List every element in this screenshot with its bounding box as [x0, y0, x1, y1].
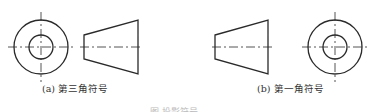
caption-third-angle: (a) 第三角符号: [42, 83, 108, 95]
third-angle-circle-view: [8, 12, 74, 82]
projection-symbols-diagram: [0, 0, 377, 112]
figure-caption: 图 投影符号: [150, 106, 198, 112]
first-angle-frustum-view: [212, 20, 272, 74]
caption-first-angle: (b) 第一角符号: [257, 83, 324, 95]
third-angle-frustum-view: [80, 20, 142, 74]
first-angle-circle-view: [302, 12, 368, 82]
